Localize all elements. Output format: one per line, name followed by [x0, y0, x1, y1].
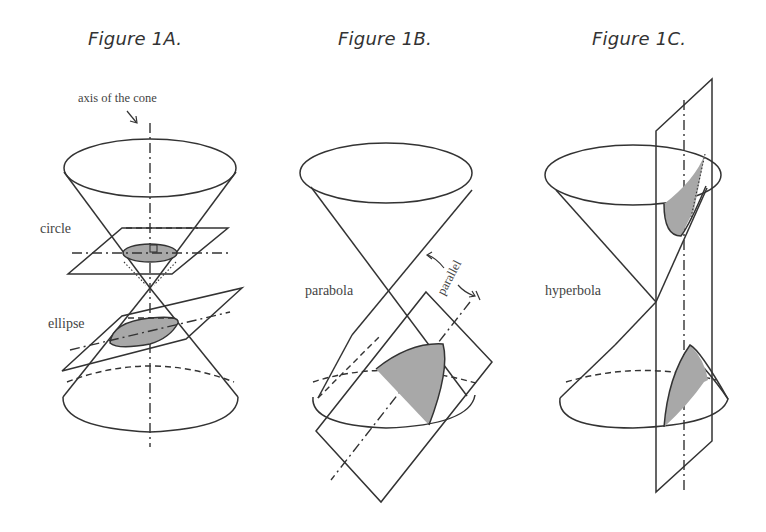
circle-label: circle: [40, 221, 71, 236]
parabola-section: [376, 344, 445, 425]
circle-plane: [68, 228, 232, 285]
hyperbola-label: hyperbola: [545, 283, 602, 298]
parabola-label: parabola: [305, 283, 354, 298]
ellipse-label: ellipse: [48, 316, 85, 331]
upper-cone-rim: [300, 143, 472, 203]
figure-1b: parabola parallel: [300, 143, 492, 502]
figure-1c: hyperbola: [545, 79, 728, 492]
parallel-label: parallel: [434, 257, 464, 297]
figure-1a: axis of the cone circle: [40, 91, 242, 447]
axis-label: axis of the cone: [78, 91, 157, 105]
ellipse-plane: [62, 288, 242, 371]
conic-sections-diagram: axis of the cone circle: [0, 0, 766, 532]
axis-arrow-icon: [127, 111, 137, 123]
